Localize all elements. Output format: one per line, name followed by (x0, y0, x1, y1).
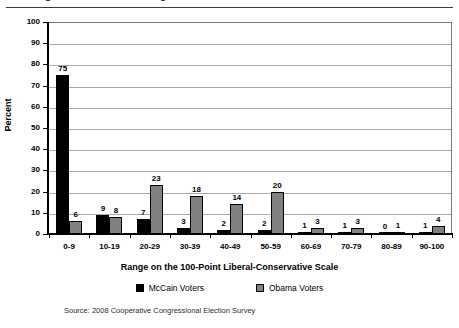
y-axis-tick-mark (43, 43, 47, 44)
y-axis-tick-label: 10 (14, 209, 40, 217)
y-axis-tick-mark (43, 234, 47, 235)
y-axis-tick-mark (43, 64, 47, 65)
x-axis-tick-label: 0-9 (49, 243, 89, 251)
bar-value-label: 1 (388, 222, 409, 230)
bar-obama[interactable] (271, 192, 284, 234)
x-axis-tick-mark (210, 234, 211, 238)
y-axis-tick-label: 40 (14, 145, 40, 153)
bar-group: 98 (96, 22, 122, 234)
x-axis-tick-label: 10-19 (89, 243, 129, 251)
header-divider (6, 7, 453, 8)
bar-mccain[interactable] (419, 232, 432, 234)
y-axis-title: Percent (3, 85, 13, 145)
x-axis-tick-label: 90-100 (412, 243, 452, 251)
x-axis-tick-label: 40-49 (210, 243, 250, 251)
bar-group: 13 (338, 22, 364, 234)
y-axis-tick-mark (43, 128, 47, 129)
bar-mccain[interactable] (338, 232, 351, 234)
x-axis-tick-mark (291, 234, 292, 238)
bar-value-label: 23 (146, 175, 167, 183)
bar-value-label: 20 (267, 182, 288, 190)
y-axis-tick-mark (43, 107, 47, 108)
y-axis-tick-label: 50 (14, 124, 40, 132)
bar-mccain[interactable] (137, 219, 150, 234)
y-axis-tick-mark (43, 86, 47, 87)
bar-mccain[interactable] (258, 230, 271, 234)
x-axis-tick-label: 60-69 (291, 243, 331, 251)
x-axis-tick-mark (170, 234, 171, 238)
bar-obama[interactable] (190, 196, 203, 234)
bar-obama[interactable] (150, 185, 163, 234)
x-axis-tick-label: 50-59 (251, 243, 291, 251)
y-axis-tick-mark (43, 149, 47, 150)
y-axis-tick-label: 60 (14, 103, 40, 111)
bar-value-label: 18 (186, 186, 207, 194)
bar-value-label: 75 (52, 65, 73, 73)
bar-group: 318 (177, 22, 203, 234)
bar-group: 01 (379, 22, 405, 234)
x-axis-tick-mark (412, 234, 413, 238)
x-axis-tick-mark (452, 234, 453, 238)
x-axis-tick-mark (331, 234, 332, 238)
bar-obama[interactable] (69, 221, 82, 234)
cutoff-title-band: Figure 3. Perceived Ideological Position… (0, 0, 459, 10)
y-axis-tick-mark (43, 192, 47, 193)
legend-label: Obama Voters (269, 283, 323, 293)
bar-group: 723 (137, 22, 163, 234)
x-axis-tick-mark (371, 234, 372, 238)
bar-mccain[interactable] (96, 215, 109, 234)
x-axis-title: Range on the 100-Point Liberal-Conservat… (0, 262, 459, 272)
y-axis-tick-label: 20 (14, 188, 40, 196)
bar-value-label: 3 (347, 218, 368, 226)
y-axis-tick-mark (43, 22, 47, 23)
bar-mccain[interactable] (56, 75, 69, 234)
bar-obama[interactable] (392, 232, 405, 234)
bar-obama[interactable] (432, 226, 445, 234)
y-axis-tick-mark (43, 170, 47, 171)
x-axis-tick-label: 80-89 (371, 243, 411, 251)
legend-item[interactable]: McCain Voters (136, 283, 204, 293)
bar-value-label: 8 (105, 207, 126, 215)
y-axis-tick-label: 100 (14, 18, 40, 26)
bar-obama[interactable] (109, 217, 122, 234)
bar-value-label: 6 (65, 211, 86, 219)
y-axis-tick-label: 90 (14, 39, 40, 47)
x-axis-tick-mark (251, 234, 252, 238)
x-axis-tick-mark (49, 234, 50, 238)
bar-mccain[interactable] (177, 228, 190, 234)
bar-mccain[interactable] (379, 232, 392, 234)
bar-group: 220 (258, 22, 284, 234)
x-axis-tick-mark (130, 234, 131, 238)
bar-value-label: 14 (226, 194, 247, 202)
bar-obama[interactable] (230, 204, 243, 234)
legend-swatch-icon (256, 284, 264, 292)
bar-obama[interactable] (311, 228, 324, 234)
y-axis-tick-label: 80 (14, 60, 40, 68)
bar-obama[interactable] (351, 228, 364, 234)
bar-group: 13 (298, 22, 324, 234)
bar-value-label: 3 (307, 218, 328, 226)
bar-group: 756 (56, 22, 82, 234)
bar-mccain[interactable] (298, 232, 311, 234)
source-note: Source: 2008 Cooperative Congressional E… (64, 306, 255, 315)
y-axis-tick-mark (43, 213, 47, 214)
bar-value-label: 4 (428, 216, 449, 224)
bar-group: 214 (217, 22, 243, 234)
x-axis-tick-label: 70-79 (331, 243, 371, 251)
bar-group: 14 (419, 22, 445, 234)
bars-layer: 7569872331821422013130114 (49, 22, 452, 234)
x-axis-tick-label: 20-29 (130, 243, 170, 251)
x-axis-tick-mark (89, 234, 90, 238)
chart-legend: McCain VotersObama Voters (0, 283, 459, 293)
cutoff-title-text: Figure 3. Perceived Ideological Position… (36, 0, 436, 1)
legend-label: McCain Voters (149, 283, 204, 293)
legend-swatch-icon (136, 284, 144, 292)
y-axis-tick-label: 0 (14, 230, 40, 238)
x-axis-tick-label: 30-39 (170, 243, 210, 251)
bar-mccain[interactable] (217, 230, 230, 234)
y-axis-tick-label: 30 (14, 166, 40, 174)
legend-item[interactable]: Obama Voters (256, 283, 323, 293)
y-axis-tick-label: 70 (14, 82, 40, 90)
